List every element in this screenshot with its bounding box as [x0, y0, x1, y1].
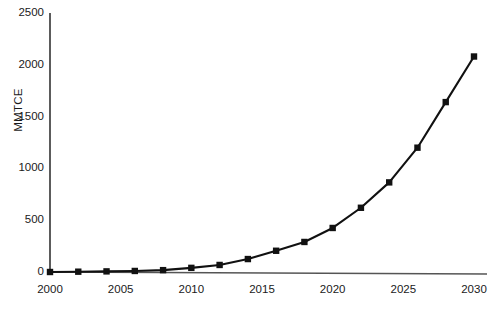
data-markers-mmtce [47, 53, 477, 275]
chart-container: MMTCE 05001000150020002500 2000200520102… [0, 0, 494, 310]
data-point-marker [132, 268, 138, 274]
data-point-marker [273, 248, 279, 254]
data-point-marker [301, 239, 307, 245]
x-axis-line [50, 272, 487, 274]
data-line-mmtce [50, 57, 474, 272]
data-point-marker [414, 144, 420, 150]
data-point-marker [245, 256, 251, 262]
data-point-marker [358, 205, 364, 211]
data-point-marker [329, 225, 335, 231]
data-point-marker [471, 53, 477, 59]
data-point-marker [47, 269, 53, 275]
plot-area [0, 0, 494, 310]
data-point-marker [216, 262, 222, 268]
data-point-marker [188, 265, 194, 271]
data-point-marker [75, 268, 81, 274]
data-point-marker [160, 267, 166, 273]
data-point-marker [443, 99, 449, 105]
data-point-marker [103, 268, 109, 274]
data-point-marker [386, 179, 392, 185]
